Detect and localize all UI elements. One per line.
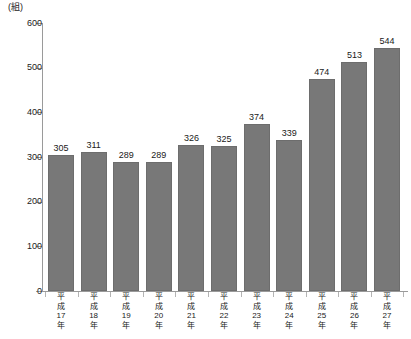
bar-group: 289 [113, 23, 139, 291]
category-separator [143, 292, 144, 297]
bar-value-label: 339 [267, 128, 311, 138]
category-label-line: 年 [220, 321, 228, 331]
category-label-line: 25 [317, 311, 326, 321]
category-label-line: 22 [220, 311, 229, 321]
y-axis-tick-label: 0 [8, 287, 42, 296]
bar[interactable] [341, 62, 367, 291]
bar[interactable] [309, 79, 335, 291]
category-label-line: 平 [220, 292, 228, 302]
bar-value-label: 325 [202, 134, 246, 144]
category-label: 平成23年 [244, 292, 270, 339]
category-label-line: 平 [122, 292, 130, 302]
category-label-line: 19 [122, 311, 131, 321]
category-label-line: 平 [155, 292, 163, 302]
category-label-line: 成 [383, 302, 391, 312]
bar-group: 289 [146, 23, 172, 291]
category-label-line: 年 [253, 321, 261, 331]
bar-group: 513 [341, 23, 367, 291]
category-label: 平成25年 [309, 292, 335, 339]
bar-value-label: 474 [300, 67, 344, 77]
bar-value-label: 374 [235, 112, 279, 122]
bar-chart: (組) 0100200300400500600 3053112892893263… [0, 0, 411, 339]
bar-group: 474 [309, 23, 335, 291]
category-separator [306, 292, 307, 297]
category-label-line: 成 [90, 302, 98, 312]
category-label-line: 年 [285, 321, 293, 331]
bar-value-label: 544 [365, 36, 409, 46]
y-axis-tick-label: 600 [8, 19, 42, 28]
y-axis-tick-label: 500 [8, 63, 42, 72]
category-separator [208, 292, 209, 297]
bar[interactable] [374, 48, 400, 291]
category-label-line: 17 [57, 311, 66, 321]
bar[interactable] [48, 155, 74, 291]
category-label-line: 年 [383, 321, 391, 331]
category-separator [175, 292, 176, 297]
category-label-line: 20 [154, 311, 163, 321]
bar[interactable] [211, 146, 237, 291]
category-label-line: 成 [285, 302, 293, 312]
category-label-line: 平 [187, 292, 195, 302]
bar-value-label: 311 [72, 140, 116, 150]
bar[interactable] [244, 124, 270, 291]
category-label-line: 年 [155, 321, 163, 331]
category-label-line: 21 [187, 311, 196, 321]
category-label: 平成27年 [374, 292, 400, 339]
category-label-line: 年 [187, 321, 195, 331]
category-label: 平成20年 [146, 292, 172, 339]
y-axis-tick-label: 100 [8, 242, 42, 251]
bar-group: 305 [48, 23, 74, 291]
category-label-line: 24 [285, 311, 294, 321]
bar[interactable] [113, 162, 139, 291]
y-axis-tick-label: 400 [8, 108, 42, 117]
category-label-line: 年 [122, 321, 130, 331]
category-label-line: 成 [350, 302, 358, 312]
category-separator [371, 292, 372, 297]
category-label-line: 成 [155, 302, 163, 312]
bar-group: 311 [81, 23, 107, 291]
bar[interactable] [276, 140, 302, 291]
category-separator [241, 292, 242, 297]
category-label: 平成18年 [81, 292, 107, 339]
category-label-line: 27 [383, 311, 392, 321]
bar-group: 326 [178, 23, 204, 291]
category-label-line: 18 [89, 311, 98, 321]
plot-area: 305311289289326325374339474513544 [42, 23, 408, 291]
category-axis: 平成17年平成18年平成19年平成20年平成21年平成22年平成23年平成24年… [42, 292, 408, 339]
category-separator [338, 292, 339, 297]
category-separator [78, 292, 79, 297]
category-label-line: 成 [318, 302, 326, 312]
category-separator [273, 292, 274, 297]
category-label-line: 平 [350, 292, 358, 302]
category-label-line: 成 [253, 302, 261, 312]
category-label-line: 成 [122, 302, 130, 312]
bar-value-label: 513 [332, 50, 376, 60]
bar-group: 544 [374, 23, 400, 291]
category-label: 平成19年 [113, 292, 139, 339]
bar-group: 374 [244, 23, 270, 291]
bar-group: 339 [276, 23, 302, 291]
category-label: 平成21年 [178, 292, 204, 339]
y-axis: 0100200300400500600 [0, 0, 42, 339]
category-label-line: 成 [57, 302, 65, 312]
bar[interactable] [178, 145, 204, 291]
bar-value-label: 289 [137, 150, 181, 160]
y-axis-tick-label: 200 [8, 197, 42, 206]
category-separator [45, 292, 46, 297]
category-label-line: 平 [383, 292, 391, 302]
category-label: 平成24年 [276, 292, 302, 339]
category-label-line: 23 [252, 311, 261, 321]
category-label: 平成22年 [211, 292, 237, 339]
bar[interactable] [81, 152, 107, 291]
category-label-line: 平 [90, 292, 98, 302]
category-separator [110, 292, 111, 297]
bar-group: 325 [211, 23, 237, 291]
category-label-line: 26 [350, 311, 359, 321]
category-label-line: 平 [285, 292, 293, 302]
category-separator [403, 292, 404, 297]
category-label: 平成26年 [341, 292, 367, 339]
category-label-line: 年 [318, 321, 326, 331]
bar[interactable] [146, 162, 172, 291]
category-label-line: 年 [57, 321, 65, 331]
category-label-line: 成 [220, 302, 228, 312]
